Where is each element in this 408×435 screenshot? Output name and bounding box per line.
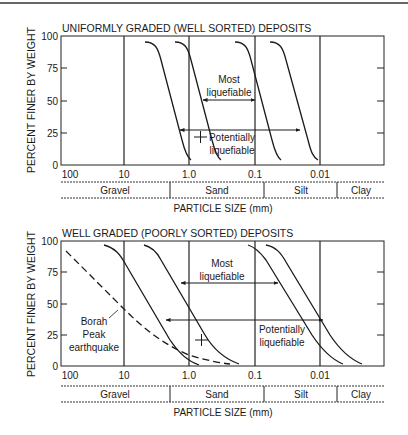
potentially-liquefiable-label-2: liquefiable [209, 145, 254, 156]
svg-text:75: 75 [47, 63, 59, 74]
class-sand: Sand [205, 185, 228, 196]
svg-text:1.0: 1.0 [182, 169, 196, 180]
most-liquefiable-label: Most [211, 258, 233, 269]
borah-label-2: Peak [83, 329, 107, 340]
svg-text:0.01: 0.01 [310, 169, 330, 180]
y-ticks-right [377, 68, 384, 133]
borah-leader-line [109, 310, 118, 318]
gradation-curves [104, 245, 362, 365]
svg-text:50: 50 [47, 299, 59, 310]
curve-1 [145, 42, 191, 160]
svg-text:100: 100 [62, 169, 79, 180]
chart-title: UNIFORMLY GRADED (WELL SORTED) DEPOSITS [62, 22, 311, 34]
x-tick-labels: 100 10 1.0 0.1 0.01 [62, 370, 331, 381]
svg-text:0.1: 0.1 [248, 370, 262, 381]
borah-label-1: Borah [81, 316, 108, 327]
x-axis-label: PARTICLE SIZE (mm) [173, 203, 272, 214]
svg-text:0.1: 0.1 [248, 169, 262, 180]
svg-text:0: 0 [52, 160, 58, 171]
curve-4 [270, 42, 318, 160]
y-ticks-left [61, 272, 67, 335]
svg-text:100: 100 [41, 236, 58, 247]
svg-text:100: 100 [62, 370, 79, 381]
class-clay: Clay [351, 185, 371, 196]
class-gravel: Gravel [100, 185, 129, 196]
chart-title: WELL GRADED (POORLY SORTED) DEPOSITS [62, 227, 293, 239]
potentially-liquefiable-label: Potentially [209, 132, 255, 143]
svg-text:10: 10 [118, 370, 130, 381]
class-silt: Silt [294, 389, 308, 400]
borah-label-3: earthquake [69, 342, 119, 353]
plus-marker [194, 131, 207, 143]
class-clay: Clay [351, 389, 371, 400]
soil-class-bar: Gravel Sand Silt Clay [61, 386, 384, 402]
svg-text:1.0: 1.0 [182, 370, 196, 381]
soil-class-bar: Gravel Sand Silt Clay [61, 182, 384, 198]
y-ticks-left [61, 68, 67, 133]
svg-text:25: 25 [47, 128, 59, 139]
x-axis-label: PARTICLE SIZE (mm) [173, 407, 272, 418]
svg-text:10: 10 [118, 169, 130, 180]
most-liquefiable-label-2: liquefiable [199, 271, 244, 282]
class-gravel: Gravel [100, 389, 129, 400]
x-tick-labels: 100 10 1.0 0.1 0.01 [62, 169, 331, 180]
y-ticks-right [377, 272, 384, 335]
y-axis-label: PERCENT FINER BY WEIGHT [25, 26, 37, 173]
potentially-liquefiable-label-2: liquefiable [259, 337, 304, 348]
svg-text:50: 50 [47, 96, 59, 107]
svg-text:25: 25 [47, 330, 59, 341]
y-axis-label: PERCENT FINER BY WEIGHT [25, 230, 37, 377]
uniformly-graded-chart: UNIFORMLY GRADED (WELL SORTED) DEPOSITS … [25, 22, 384, 214]
figure: UNIFORMLY GRADED (WELL SORTED) DEPOSITS … [0, 0, 408, 435]
class-silt: Silt [294, 185, 308, 196]
svg-text:0: 0 [52, 361, 58, 372]
class-sand: Sand [205, 389, 228, 400]
svg-text:100: 100 [41, 31, 58, 42]
potentially-liquefiable-label: Potentially [259, 324, 305, 335]
y-tick-labels: 100 75 50 25 0 [41, 31, 58, 171]
most-liquefiable-label: Most [218, 74, 240, 85]
most-liquefiable-label-2: liquefiable [206, 87, 251, 98]
y-tick-labels: 100 75 50 25 0 [41, 236, 58, 372]
svg-text:0.01: 0.01 [310, 370, 330, 381]
well-graded-chart: WELL GRADED (POORLY SORTED) DEPOSITS PER… [25, 227, 384, 418]
svg-text:75: 75 [47, 267, 59, 278]
